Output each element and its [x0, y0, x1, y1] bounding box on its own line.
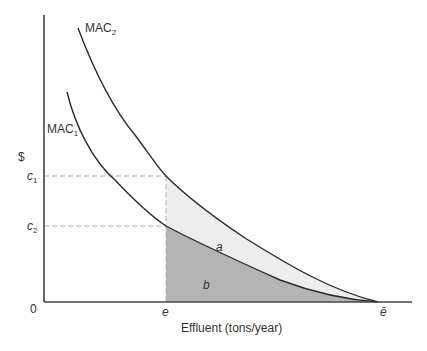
mac-diagram: MAC2 MAC1 $ c1 c2 0 e ē Effluent (tons/y…	[0, 0, 427, 351]
e-tick-label: e	[162, 305, 169, 319]
region-a-label: a	[216, 240, 223, 254]
origin-label: 0	[30, 302, 37, 316]
c2-tick-label: c2	[27, 219, 38, 235]
region-b-label: b	[203, 278, 210, 292]
x-axis-label: Effluent (tons/year)	[181, 321, 282, 335]
y-axis-label: $	[18, 150, 25, 164]
e-bar-tick-label: ē	[380, 305, 387, 319]
mac2-label: MAC2	[85, 21, 117, 37]
c1-tick-label: c1	[27, 169, 38, 185]
mac1-label: MAC1	[47, 122, 79, 138]
